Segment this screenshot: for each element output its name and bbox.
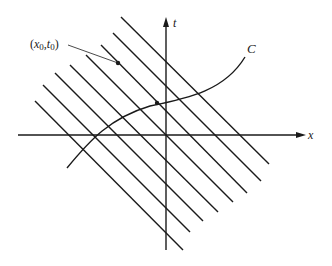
x-axis-label: x xyxy=(307,128,314,142)
x-axis-arrow-icon xyxy=(296,132,306,138)
characteristic-line xyxy=(55,73,203,221)
characteristic-line xyxy=(101,45,247,193)
point-x0-t0 xyxy=(116,61,120,65)
curve-intersection-point xyxy=(155,101,159,105)
point-label: (x0,t0) xyxy=(30,37,59,52)
t-axis-arrow-icon xyxy=(163,17,169,27)
characteristic-line xyxy=(113,33,261,181)
characteristic-line xyxy=(121,17,269,164)
characteristic-lines xyxy=(35,17,269,250)
characteristic-line xyxy=(35,101,183,250)
characteristic-line xyxy=(43,85,190,232)
t-axis-label: t xyxy=(173,16,177,30)
characteristic-line xyxy=(86,55,233,202)
curve-label: C xyxy=(247,41,256,56)
characteristics-diagram: t x C (x0,t0) xyxy=(0,0,332,266)
characteristic-line xyxy=(70,65,218,212)
